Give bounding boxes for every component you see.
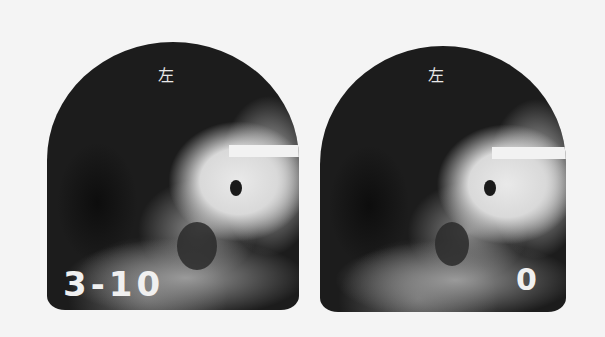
xray-sinus [177,222,217,270]
side-label: 左 [158,62,174,86]
film-id-text: 3-10 [63,264,164,304]
xray-foramen [230,180,242,196]
xray-image-right: 左 0 [320,46,566,312]
film-id-text: 0 [516,262,541,297]
xray-image-left: 左 3-10 [47,42,299,310]
side-label: 左 [428,62,444,86]
xray-foramen [484,180,496,196]
xray-marker-bar [229,145,299,157]
xray-marker-bar [492,147,566,159]
xray-sinus [435,222,469,266]
